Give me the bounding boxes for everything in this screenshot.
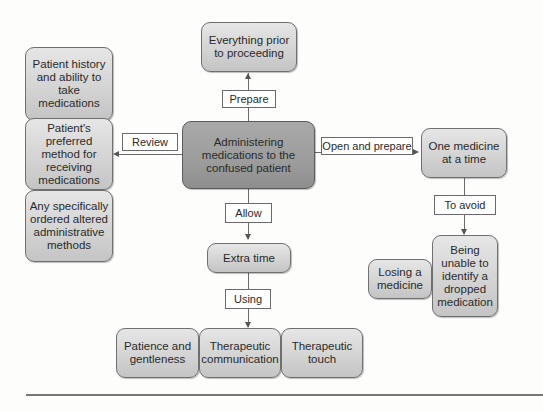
edge-label-text: Open and prepare (322, 139, 411, 153)
node-text: Therapeutic communication (201, 340, 278, 366)
edge-label-text: Allow (235, 206, 261, 220)
node-text: Being unable to identify a dropped medic… (435, 244, 495, 309)
edge-label-allow: Allow (225, 203, 272, 223)
node-text: One medicine at a time (424, 140, 504, 166)
node-therapeutic-touch: Therapeutic touch (281, 328, 363, 378)
node-altered-methods: Any specifically ordered altered adminis… (25, 190, 113, 262)
node-text: Patient's preferred method for receiving… (28, 122, 110, 187)
arrow-down-icon (245, 234, 251, 240)
node-center-topic: Administering medications to the confuse… (182, 121, 315, 189)
edge-label-using: Using (225, 289, 271, 309)
node-patient-history: Patient history and ability to take medi… (25, 47, 113, 121)
arrow-up-icon (245, 73, 251, 79)
edge-label-text: Prepare (229, 92, 268, 106)
edge-label-review: Review (122, 133, 178, 151)
node-losing-medicine: Losing a medicine (368, 259, 432, 299)
edge-label-to-avoid: To avoid (434, 195, 496, 215)
edge-label-text: To avoid (445, 198, 486, 212)
node-text: Extra time (223, 252, 275, 265)
node-everything-prior: Everything prior to proceeding (201, 22, 297, 72)
horizontal-rule (26, 394, 543, 396)
node-text: Losing a medicine (371, 266, 429, 292)
node-text: Patient history and ability to take medi… (28, 58, 110, 110)
node-text: Administering medications to the confuse… (185, 136, 312, 175)
arrow-left-icon (113, 151, 119, 157)
edge-label-text: Using (234, 292, 262, 306)
node-dropped-medication: Being unable to identify a dropped medic… (432, 235, 498, 317)
edge-label-prepare: Prepare (222, 90, 276, 108)
connector-center-left (116, 154, 183, 155)
node-preferred-method: Patient's preferred method for receiving… (25, 118, 113, 190)
arrow-right-icon (413, 149, 419, 155)
node-text: Patience and gentleness (119, 340, 196, 366)
node-one-medicine: One medicine at a time (421, 128, 507, 178)
edge-label-text: Review (132, 135, 168, 149)
node-text: Therapeutic touch (284, 340, 360, 366)
node-text: Any specifically ordered altered adminis… (28, 200, 110, 252)
node-extra-time: Extra time (207, 243, 291, 273)
edge-label-open-and-prepare: Open and prepare (321, 137, 413, 155)
node-patience-gentleness: Patience and gentleness (116, 328, 199, 378)
node-therapeutic-communication: Therapeutic communication (199, 328, 281, 378)
node-text: Everything prior to proceeding (204, 34, 294, 60)
